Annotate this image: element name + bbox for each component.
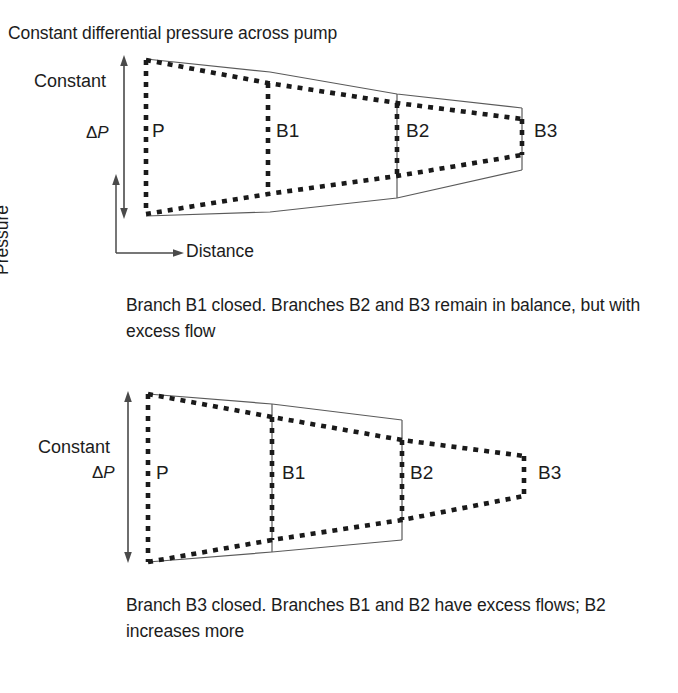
diagram2-caption: Branch B3 closed. Branches B1 and B2 hav…: [126, 592, 656, 644]
diagram2-graphic: [0, 0, 678, 693]
diagram2-solid-envelope: [148, 394, 402, 562]
diagram2-dotted-envelope: [148, 394, 524, 562]
diagram2-delta-p-arrow: [124, 391, 132, 563]
diagram2-branch-risers: [148, 394, 524, 562]
